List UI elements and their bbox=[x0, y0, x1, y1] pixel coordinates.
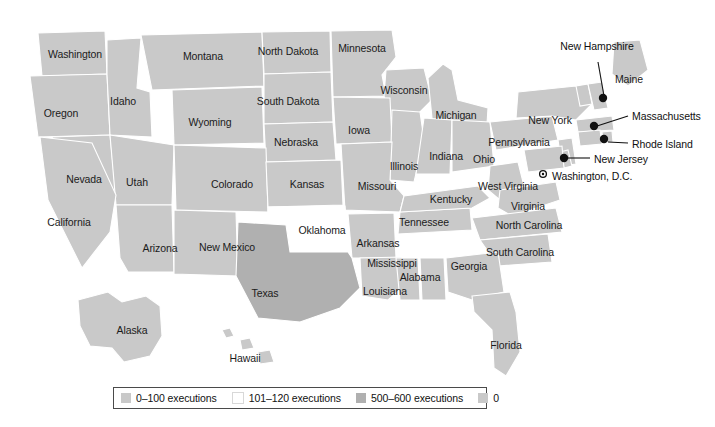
state-shape bbox=[384, 68, 432, 118]
city-label-washington-dc: Washington, D.C. bbox=[552, 170, 632, 182]
state-shape bbox=[452, 120, 494, 172]
callout-label-new-jersey: New Jersey bbox=[594, 153, 648, 165]
us-execution-choropleth-map: WashingtonOregonIdahoMontanaWyomingNorth… bbox=[0, 0, 715, 427]
state-shape bbox=[78, 292, 162, 362]
state-shape bbox=[400, 186, 490, 212]
map-svg bbox=[0, 0, 715, 427]
state-shape bbox=[446, 252, 504, 300]
callout-label-massachusetts: Massachusetts bbox=[632, 110, 701, 122]
state-shape bbox=[396, 258, 420, 300]
map-legend: 0–100 executions101–120 executions500–60… bbox=[113, 387, 487, 409]
legend-item: 500–600 executions bbox=[356, 392, 463, 404]
legend-swatch-icon bbox=[478, 393, 488, 403]
legend-label: 0 bbox=[493, 392, 499, 404]
state-shape bbox=[472, 292, 520, 376]
legend-swatch-icon bbox=[356, 393, 366, 403]
state-shape bbox=[490, 116, 558, 150]
callout-leader-line bbox=[608, 142, 628, 143]
state-shape bbox=[420, 258, 446, 300]
state-shape bbox=[174, 145, 268, 212]
washington-dc-marker-icon bbox=[540, 171, 547, 178]
legend-item: 0–100 executions bbox=[121, 392, 217, 404]
callout-dot bbox=[600, 135, 608, 143]
state-shape bbox=[110, 135, 174, 205]
legend-item: 0 bbox=[478, 392, 499, 404]
state-shape bbox=[262, 31, 331, 74]
callout-dot bbox=[560, 154, 568, 162]
callout-dot bbox=[599, 94, 607, 102]
state-shape bbox=[174, 210, 238, 276]
state-shape bbox=[264, 122, 336, 162]
legend-label: 500–600 executions bbox=[371, 392, 463, 404]
state-shape bbox=[524, 146, 564, 172]
legend-label: 101–120 executions bbox=[249, 392, 341, 404]
state-shape bbox=[30, 74, 110, 137]
state-shape bbox=[141, 32, 264, 90]
state-shape bbox=[222, 328, 274, 364]
legend-swatch-icon bbox=[121, 393, 131, 403]
state-shape bbox=[116, 205, 174, 272]
state-shape bbox=[38, 31, 107, 76]
state-shape bbox=[578, 130, 602, 146]
legend-item: 101–120 executions bbox=[232, 392, 341, 404]
legend-label: 0–100 executions bbox=[136, 392, 217, 404]
state-shape bbox=[348, 213, 396, 258]
callout-label-rhode-island: Rhode Island bbox=[632, 138, 693, 150]
state-shape bbox=[264, 72, 333, 124]
state-shape bbox=[266, 160, 343, 207]
callout-label-new-hampshire: New Hampshire bbox=[560, 40, 633, 52]
state-shape bbox=[333, 97, 392, 144]
legend-swatch-icon bbox=[232, 392, 244, 404]
state-shape bbox=[172, 87, 264, 145]
callout-dot bbox=[590, 122, 598, 130]
